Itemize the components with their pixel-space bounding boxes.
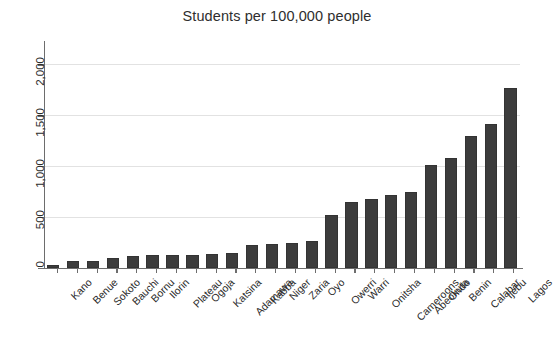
x-axis-label: Ijebu [504,276,529,301]
x-tick-mark [235,268,236,273]
x-tick-mark [136,268,137,273]
chart-title: Students per 100,000 people [0,8,554,24]
bar [325,215,337,268]
bar [266,244,278,268]
bar [226,253,238,268]
bar-series [44,44,520,268]
x-tick-mark [414,268,415,273]
y-tick-label-text: 2,000 [34,57,46,86]
bar [425,165,437,268]
plot-area [44,44,520,268]
bar [186,255,198,268]
bar [107,258,119,268]
bar [286,243,298,268]
bar [127,256,139,268]
x-tick-mark [116,268,117,273]
x-tick-mark [454,268,455,273]
x-tick-mark [493,268,494,273]
y-tick-label-text: 500 [34,210,46,229]
y-tick-mark [38,268,44,269]
x-axis-label: Onitsha [389,276,423,310]
x-tick-mark [335,268,336,273]
bar [146,255,158,268]
x-tick-mark [97,268,98,273]
y-tick-label-text: 1,500 [34,108,46,137]
x-tick-mark [315,268,316,273]
y-tick-label: 1,000 [0,159,34,173]
x-tick-mark [473,268,474,273]
chart-figure: Students per 100,000 people 05001,0001,5… [0,0,554,337]
bar [306,241,318,268]
y-tick-label-text: 0 [34,261,46,267]
x-tick-mark [216,268,217,273]
bar [504,88,516,268]
y-tick-label: 1,500 [0,108,34,122]
x-tick-mark [196,268,197,273]
y-tick-label: 0 [0,261,34,275]
bar [246,245,258,268]
bar [345,202,357,268]
x-axis-line [41,268,523,269]
x-tick-mark [354,268,355,273]
y-tick-label: 500 [0,210,34,224]
x-tick-mark [57,268,58,273]
bar [445,158,457,268]
x-tick-mark [434,268,435,273]
x-axis-label: Oyo [324,276,346,298]
y-tick-label: 2,000 [0,57,34,71]
bar [67,261,79,268]
bar [87,261,99,268]
bar [206,254,218,268]
x-tick-mark [156,268,157,273]
x-tick-mark [255,268,256,273]
x-tick-mark [77,268,78,273]
y-tick-label-text: 1,000 [34,159,46,188]
x-tick-mark [374,268,375,273]
bar [166,255,178,268]
x-tick-mark [275,268,276,273]
bar [405,192,417,268]
x-tick-mark [295,268,296,273]
x-axis-label: Lagos [525,276,554,305]
bar [365,199,377,268]
x-tick-mark [394,268,395,273]
bar [465,136,477,268]
bar [485,124,497,268]
bar [385,195,397,268]
x-tick-mark [176,268,177,273]
x-tick-mark [513,268,514,273]
